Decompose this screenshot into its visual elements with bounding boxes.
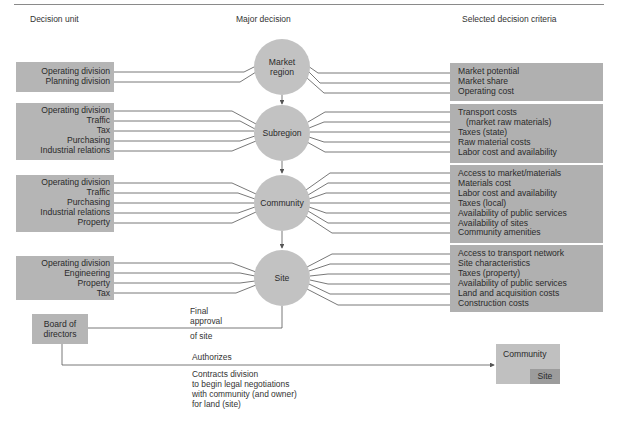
final-approval-line: approval (190, 316, 222, 326)
authorizes-detail: Contracts division (192, 369, 297, 379)
authorizes-detail: to begin legal negotiations (192, 379, 297, 389)
unit-label: Planning division (16, 77, 110, 87)
unit-box-market-region: Operating division Planning division (16, 62, 114, 92)
unit-label: Property (16, 279, 110, 289)
unit-box-subregion: Operating division Traffic Tax Purchasin… (16, 103, 114, 160)
decision-market-region: Market region (254, 39, 310, 95)
authorizes-details: Contracts division to begin legal negoti… (192, 369, 297, 409)
criteria-box-subregion: Transport costs (market raw materials) T… (450, 104, 603, 163)
decision-label: Community (260, 198, 303, 208)
decision-subregion: Subregion (254, 105, 310, 161)
criteria-box-community: Access to market/materials Materials cos… (450, 165, 603, 243)
board-label: directors (32, 329, 88, 339)
criteria-box-market-region: Market potential Market share Operating … (450, 63, 603, 101)
community-target-box: Community Site (496, 344, 560, 384)
criteria-label: Operating cost (458, 87, 603, 97)
unit-label: Tax (16, 289, 110, 299)
criteria-label: Labor cost and availability (458, 148, 603, 158)
decision-label: Site (275, 273, 290, 283)
authorizes-label: Authorizes (192, 352, 232, 362)
final-approval-label: Final approval (190, 306, 222, 326)
unit-label: Traffic (16, 116, 110, 126)
community-target-label: Community (503, 349, 546, 359)
decision-site: Site (254, 250, 310, 306)
unit-label: Industrial relations (16, 146, 110, 156)
authorizes-detail: for land (site) (192, 399, 297, 409)
unit-box-community: Operating division Traffic Purchasing In… (16, 175, 114, 232)
unit-label: Property (16, 218, 110, 228)
unit-box-site: Operating division Engineering Property … (16, 256, 114, 300)
decision-label: region (269, 67, 295, 77)
decision-label: Market (269, 57, 295, 67)
final-approval-line: Final (190, 306, 222, 316)
authorizes-detail: with community (and owner) (192, 389, 297, 399)
criteria-label: Construction costs (458, 299, 603, 309)
final-approval-of-site: of site (190, 331, 212, 341)
criteria-label: Community amenities (458, 228, 603, 238)
site-target-box: Site (530, 369, 560, 384)
board-of-directors-box: Board of directors (32, 314, 88, 344)
decision-community: Community (254, 175, 310, 231)
board-label: Board of (32, 319, 88, 329)
decision-label: Subregion (262, 128, 301, 138)
criteria-box-site: Access to transport network Site charact… (450, 245, 603, 312)
